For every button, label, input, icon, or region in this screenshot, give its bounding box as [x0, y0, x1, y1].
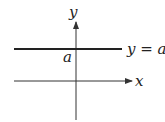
- y-axis-label: y: [68, 3, 78, 21]
- graph: y x a y = a: [0, 0, 165, 122]
- intercept-label: a: [63, 48, 72, 66]
- x-axis-label: x: [135, 72, 144, 90]
- line-equation-label: y = a: [126, 40, 165, 58]
